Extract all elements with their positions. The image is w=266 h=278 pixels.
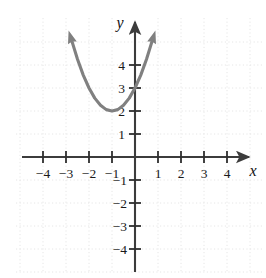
graph-canvas: −4 −3 −2 −1 1 2 3 4 4 3 2 1 −1 −2 −3 −4 … (0, 0, 266, 278)
x-tick-label-2: 2 (178, 166, 185, 181)
x-tick-label-neg3: −3 (59, 166, 74, 181)
y-axis-label: y (114, 14, 124, 32)
x-tick-label-neg2: −2 (82, 166, 96, 181)
y-tick-label-3: 3 (118, 81, 125, 96)
plot-background (0, 0, 266, 278)
x-tick-label-neg4: −4 (36, 166, 51, 181)
x-tick-label-3: 3 (201, 166, 208, 181)
y-tick-label-neg4: −4 (113, 242, 128, 257)
y-tick-label-neg2: −2 (113, 196, 127, 211)
y-tick-label-neg3: −3 (113, 219, 128, 234)
x-axis-label: x (248, 162, 256, 179)
x-tick-label-1: 1 (155, 166, 162, 181)
x-tick-label-4: 4 (224, 166, 231, 181)
coordinate-graph: −4 −3 −2 −1 1 2 3 4 4 3 2 1 −1 −2 −3 −4 … (0, 0, 266, 278)
y-tick-label-1: 1 (118, 127, 125, 142)
y-tick-label-neg1: −1 (113, 173, 127, 188)
y-tick-label-4: 4 (118, 58, 125, 73)
